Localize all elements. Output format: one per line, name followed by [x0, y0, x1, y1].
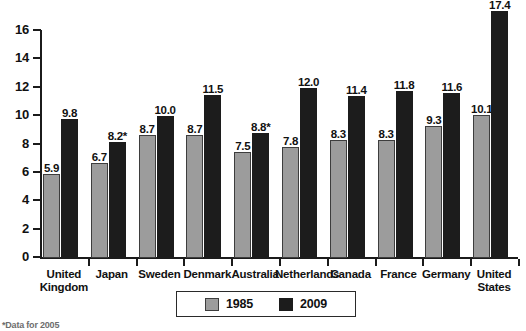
bar-value-label: 8.2* — [108, 130, 127, 142]
y-tick-label: 8 — [22, 136, 29, 151]
x-tick — [470, 259, 472, 266]
bar-1985-france: 8.3 — [378, 140, 395, 258]
bar-value-label: 6.7 — [92, 151, 107, 163]
x-tick — [136, 259, 138, 266]
bar-2009-germany: 11.6 — [443, 93, 460, 258]
bar-1985-canada: 8.3 — [330, 140, 347, 258]
bar-value-label: 8.7 — [140, 123, 155, 135]
legend-item-1985: 1985 — [205, 297, 253, 311]
legend-label-2009: 2009 — [300, 297, 327, 311]
x-tick — [375, 259, 377, 266]
x-tick — [183, 259, 185, 266]
x-tick — [88, 259, 90, 266]
bar-cluster: 5.99.8 — [40, 30, 88, 258]
x-tick — [231, 259, 233, 266]
bar-value-label: 8.3 — [331, 128, 346, 140]
legend-item-2009: 2009 — [279, 297, 327, 311]
bar-value-label: 5.9 — [44, 162, 59, 174]
bar-cluster: 7.58.8* — [231, 30, 279, 258]
bar-2009-united-states: 17.4 — [491, 11, 508, 258]
y-tick-label: 2 — [22, 221, 29, 236]
bar-value-label: 12.0 — [298, 76, 319, 88]
bar-2009-japan: 8.2* — [109, 142, 126, 258]
bar-value-label: 7.8 — [283, 135, 298, 147]
bar-2009-united-kingdom: 9.8 — [61, 119, 78, 258]
y-tick-label: 16 — [15, 22, 29, 37]
y-tick-label: 6 — [22, 164, 29, 179]
bar-1985-australia: 7.5 — [234, 152, 251, 258]
bar-1985-japan: 6.7 — [91, 163, 108, 258]
bar-value-label: 8.3 — [379, 128, 394, 140]
bar-cluster: 8.711.5 — [183, 30, 231, 258]
bar-1985-netherlands: 7.8 — [282, 147, 299, 258]
y-tick-label: 10 — [15, 107, 29, 122]
y-tick-label: 4 — [22, 192, 29, 207]
x-tick — [422, 259, 424, 266]
y-tick-label: 14 — [15, 51, 29, 66]
bar-2009-denmark: 11.5 — [204, 95, 221, 258]
bar-value-label: 11.6 — [442, 81, 463, 93]
x-tick — [518, 259, 520, 266]
x-tick — [327, 259, 329, 266]
bar-1985-denmark: 8.7 — [186, 135, 203, 258]
bar-value-label: 11.4 — [346, 84, 367, 96]
legend-label-1985: 1985 — [226, 297, 253, 311]
gray-swatch-icon — [205, 298, 219, 311]
bar-value-label: 7.5 — [235, 140, 250, 152]
bar-2009-france: 11.8 — [396, 91, 413, 258]
bar-cluster: 9.311.6 — [422, 30, 470, 258]
chart-legend: 1985 2009 — [176, 291, 356, 317]
bar-cluster: 7.812.0 — [279, 30, 327, 258]
y-tick-label: 12 — [15, 79, 29, 94]
y-tick-label: 0 — [22, 249, 29, 264]
bar-2009-australia: 8.8* — [252, 133, 269, 258]
bar-1985-united-states: 10.1 — [473, 115, 490, 258]
black-swatch-icon — [279, 298, 293, 311]
bar-value-label: 8.8* — [251, 121, 270, 133]
bar-value-label: 10.1 — [471, 103, 492, 115]
chart-footnote: *Data for 2005 — [2, 320, 59, 330]
bar-value-label: 11.5 — [203, 83, 224, 95]
bar-2009-canada: 11.4 — [348, 96, 365, 258]
bar-cluster: 8.710.0 — [136, 30, 184, 258]
bar-value-label: 10.0 — [155, 104, 176, 116]
bar-cluster: 6.78.2* — [88, 30, 136, 258]
bar-1985-united-kingdom: 5.9 — [43, 174, 60, 258]
bar-cluster: 8.311.4 — [327, 30, 375, 258]
bar-value-label: 11.8 — [394, 79, 415, 91]
bar-2009-sweden: 10.0 — [157, 116, 174, 258]
plot-area: 5.99.86.78.2*8.710.08.711.57.58.8*7.812.… — [40, 30, 518, 258]
x-tick — [279, 259, 281, 266]
bar-value-label: 8.7 — [187, 123, 202, 135]
bar-1985-germany: 9.3 — [425, 126, 442, 258]
bar-chart: 0246810121416 5.99.86.78.2*8.710.08.711.… — [0, 0, 526, 331]
bar-cluster: 10.117.4 — [470, 30, 518, 258]
bar-value-label: 9.8 — [62, 107, 77, 119]
bar-1985-sweden: 8.7 — [139, 135, 156, 258]
bar-2009-netherlands: 12.0 — [300, 88, 317, 258]
bar-cluster: 8.311.8 — [375, 30, 423, 258]
bar-value-label: 9.3 — [426, 114, 441, 126]
bar-value-label: 17.4 — [489, 0, 510, 11]
category-label-united-states: United States — [466, 268, 522, 294]
